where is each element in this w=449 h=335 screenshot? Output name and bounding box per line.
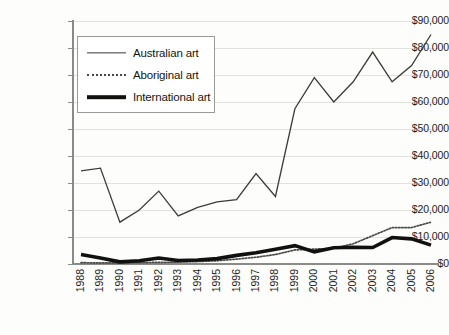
legend-swatch-solid-thick-icon	[87, 92, 126, 102]
legend-item-australian-art: Australian art	[87, 45, 199, 61]
line-chart: $90,000$80,000$70,000$60,000$50,000$40,0…	[0, 0, 449, 335]
legend-item-aboriginal-art: Aboriginal art	[87, 67, 199, 83]
series-line-international-art	[81, 238, 431, 262]
series-layer	[0, 0, 449, 335]
legend-label-international-art: International art	[133, 91, 210, 103]
legend-label-australian-art: Australian art	[133, 47, 199, 59]
legend-swatch-solid-thin-icon	[87, 48, 126, 58]
legend-swatch-dotted-icon	[87, 70, 126, 80]
legend-item-international-art: International art	[87, 89, 210, 105]
legend-label-aboriginal-art: Aboriginal art	[133, 69, 199, 81]
chart-legend: Australian art Aboriginal art Internatio…	[77, 36, 215, 113]
